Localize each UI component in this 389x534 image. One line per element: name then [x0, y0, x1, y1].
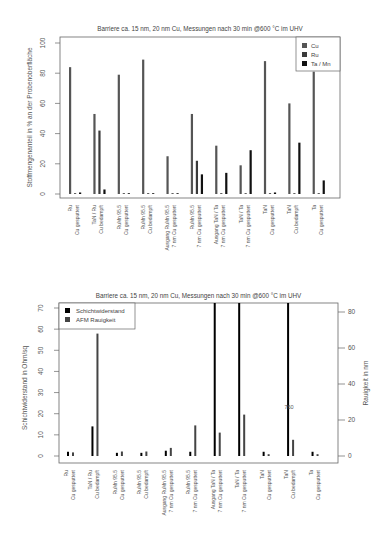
x-tick-label-line: TaN / Ru — [87, 470, 93, 490]
bar-schichtwiderstand — [140, 453, 142, 456]
y-tick-label-left: 70 — [37, 304, 44, 312]
composition-chart-svg: Barriere ca. 15 nm, 20 nm Cu, Messungen … — [0, 0, 389, 262]
x-tick-label-line: Ta — [311, 205, 317, 211]
legend-label: Schichtwiderstand — [76, 308, 125, 314]
x-tick-label: Ausgang RuMn 95.57 nm Cu gesputtert — [161, 469, 174, 515]
y-axis-label-right: Rauigkeit in nm — [362, 361, 370, 406]
y-tick-label-right: 0 — [348, 452, 352, 459]
resistance-roughness-chart: Barriere ca. 15 nm, 20 nm Cu, Messungen … — [0, 262, 389, 534]
bar-ta-mn — [225, 173, 227, 194]
x-tick-label: TaN / Ta7 nm Cu gesputtert — [234, 469, 247, 512]
bar-ru — [196, 161, 198, 194]
x-tick-label-line: RuMn 95.5 — [140, 205, 146, 230]
bar-afm-rauigkeit — [145, 452, 147, 457]
x-tick-label-line: 7 nm Cu gesputtert — [220, 204, 226, 247]
y-tick-label-left: 50 — [37, 346, 44, 354]
bar-ru — [220, 193, 222, 194]
x-tick-label-line: Ausgang RuMn 95.5 — [161, 470, 167, 516]
x-tick-label: Ausgang RuMn 95.57 nm Cu gesputtert — [164, 204, 177, 250]
x-tick-label-line: Cu bedampft — [293, 204, 299, 233]
x-tick-label: TaCu gesputtert — [308, 469, 321, 500]
bar-cu — [288, 103, 290, 194]
legend-label: Cu — [311, 43, 319, 49]
bar-schichtwiderstand — [189, 452, 191, 456]
bar-afm-rauigkeit — [72, 452, 74, 456]
x-tick-label-line: Ru — [67, 205, 73, 212]
x-tick-label-line: RuMn 95.5 — [136, 470, 142, 495]
x-tick-label-line: Cu gesputtert — [119, 469, 125, 500]
x-tick-label: TaN / Ta7 nm Cu gesputtert — [238, 204, 251, 247]
bar-schichtwiderstand — [287, 303, 289, 456]
bar-afm-rauigkeit — [243, 415, 245, 456]
legend-label: AFM Rauigkeit — [76, 317, 116, 323]
x-tick-label: RuMn 95.5Cu gesputtert — [112, 469, 125, 500]
x-tick-label-line: TaN — [262, 205, 268, 214]
x-tick-label-line: TaN / Ta — [238, 205, 244, 223]
resistance-roughness-chart-svg: Barriere ca. 15 nm, 20 nm Cu, Messungen … — [0, 262, 389, 534]
x-tick-label-line: TaN — [259, 470, 265, 479]
bar-cu — [142, 60, 144, 194]
legend-swatch — [65, 308, 70, 313]
bar-ru — [98, 131, 100, 194]
y-tick-label: 80 — [39, 69, 46, 77]
x-tick-label-line: Cu gesputtert — [315, 469, 321, 500]
y-tick-label-right: 20 — [348, 416, 356, 423]
y-tick-label-right: 60 — [348, 344, 356, 351]
y-tick-label-right: 80 — [348, 308, 356, 315]
x-tick-label: Ausgang TaN / Ta7 nm Cu gesputtert — [213, 204, 226, 247]
y-tick-label-right: 40 — [348, 380, 356, 387]
bar-schichtwiderstand — [238, 303, 240, 456]
bar-ta-mn — [201, 174, 203, 194]
bar-ta-mn — [152, 193, 154, 194]
bar-schichtwiderstand — [67, 452, 69, 456]
x-tick-label: RuCu gesputtert — [67, 204, 80, 235]
x-tick-label: RuCu gesputtert — [63, 469, 76, 500]
bar-cu — [93, 114, 95, 194]
x-tick-label-line: 7 nm Cu gesputtert — [196, 204, 202, 247]
bar-ru — [318, 193, 320, 194]
bar-afm-rauigkeit — [170, 448, 172, 456]
bar-ta-mn — [323, 180, 325, 194]
bar-ta-mn — [128, 193, 130, 194]
bar-ta-mn — [79, 192, 81, 194]
bar-ta-mn — [103, 189, 105, 194]
bar-schichtwiderstand — [312, 452, 314, 456]
bar-ta-mn — [298, 143, 300, 194]
legend-label: Ta / Mn — [311, 61, 331, 67]
x-tick-label-line: Cu bedampft — [147, 204, 153, 233]
x-tick-label-line: Ru — [63, 470, 69, 477]
y-tick-label: 0 — [39, 192, 46, 196]
x-tick-label: TaNCu gesputtert — [262, 204, 275, 235]
x-tick-label: TaNCu bedampft — [286, 204, 299, 233]
bar-ru — [245, 193, 247, 194]
bar-ta-mn — [274, 192, 276, 194]
bar-cu — [313, 72, 315, 194]
x-tick-label-line: Ausgang RuMn 95.5 — [164, 205, 170, 251]
bar-ru — [123, 193, 125, 194]
bar-ru — [269, 193, 271, 194]
x-tick-label: Ausgang TaN / Ta7 nm Cu gesputtert — [210, 469, 223, 512]
bar-ru — [293, 193, 295, 194]
bar-afm-rauigkeit — [317, 454, 319, 456]
x-tick-label-line: RuMn 95.5 — [189, 205, 195, 230]
bar-afm-rauigkeit — [194, 425, 196, 456]
legend-box — [59, 303, 135, 329]
y-tick-label-left: 60 — [37, 325, 44, 333]
x-tick-label-line: 7 nm Cu gesputtert — [168, 469, 174, 512]
x-tick-label-line: TaN / Ta — [234, 470, 240, 488]
x-tick-label-line: 7 nm Cu gesputtert — [171, 204, 177, 247]
bar-afm-rauigkeit — [268, 454, 270, 456]
x-tick-label-line: Cu bedampft — [94, 469, 100, 498]
y-tick-label: 20 — [39, 160, 46, 168]
y-tick-label: 100 — [39, 37, 46, 48]
bar-schichtwiderstand — [116, 453, 118, 456]
x-tick-label-line: Cu gesputtert — [123, 204, 129, 235]
x-tick-label-line: Cu bedampft — [290, 469, 296, 498]
x-tick-label-line: 7 nm Cu gesputtert — [245, 204, 251, 247]
y-tick-label-left: 20 — [37, 410, 44, 418]
y-tick-label-left: 30 — [37, 389, 44, 397]
x-tick-label-line: Cu gesputtert — [318, 204, 324, 235]
x-tick-label: TaCu gesputtert — [311, 204, 324, 235]
x-tick-label-line: Ta — [308, 470, 314, 476]
x-tick-label: RuMn 95.5Cu bedampft — [136, 469, 149, 498]
